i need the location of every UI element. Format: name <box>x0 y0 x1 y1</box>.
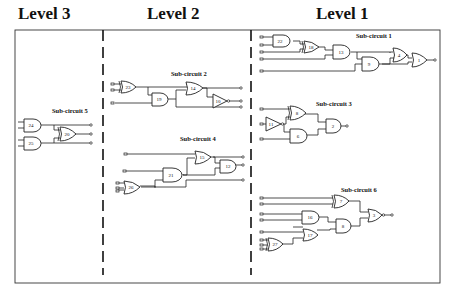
svg-text:21: 21 <box>169 173 175 178</box>
svg-text:18: 18 <box>309 45 315 50</box>
svg-text:20: 20 <box>65 132 71 137</box>
svg-text:14: 14 <box>191 86 197 91</box>
svg-text:11: 11 <box>269 122 274 127</box>
svg-text:27: 27 <box>273 242 279 247</box>
svg-text:12: 12 <box>226 164 232 169</box>
svg-text:24: 24 <box>29 123 35 128</box>
subcircuit-4: Sub-circuit 4 15 21 12 26 <box>116 135 244 194</box>
circuit-diagram: Sub-circuit 1 22 18 13 9 4 1 Sub-circuit… <box>0 0 455 298</box>
svg-text:26: 26 <box>129 185 135 190</box>
svg-text:23: 23 <box>126 85 132 90</box>
subcircuit-3-title: Sub-circuit 3 <box>316 100 353 107</box>
svg-text:19: 19 <box>157 97 163 102</box>
svg-text:17: 17 <box>308 233 314 238</box>
subcircuit-2-title: Sub-circuit 2 <box>171 70 207 77</box>
subcircuit-2: Sub-circuit 2 23 19 14 10 <box>111 70 242 108</box>
subcircuit-1-title: Sub-circuit 1 <box>356 32 392 39</box>
svg-text:16: 16 <box>308 215 314 220</box>
subcircuit-3: Sub-circuit 3 8 11 6 2 <box>260 100 353 143</box>
svg-text:10: 10 <box>216 99 222 104</box>
subcircuit-6-title: Sub-circuit 6 <box>341 186 378 193</box>
svg-text:15: 15 <box>200 155 206 160</box>
svg-text:22: 22 <box>278 39 284 44</box>
subcircuit-1: Sub-circuit 1 22 18 13 9 4 1 <box>260 32 436 72</box>
subcircuit-5: Sub-circuit 5 24 25 20 <box>18 107 92 150</box>
subcircuit-5-title: Sub-circuit 5 <box>52 107 89 114</box>
svg-text:13: 13 <box>339 50 345 55</box>
gate-9-and <box>362 57 379 71</box>
subcircuit-6: Sub-circuit 6 7 16 8 17 27 3 <box>260 186 393 251</box>
subcircuit-4-title: Sub-circuit 4 <box>180 135 217 142</box>
svg-text:25: 25 <box>29 141 35 146</box>
